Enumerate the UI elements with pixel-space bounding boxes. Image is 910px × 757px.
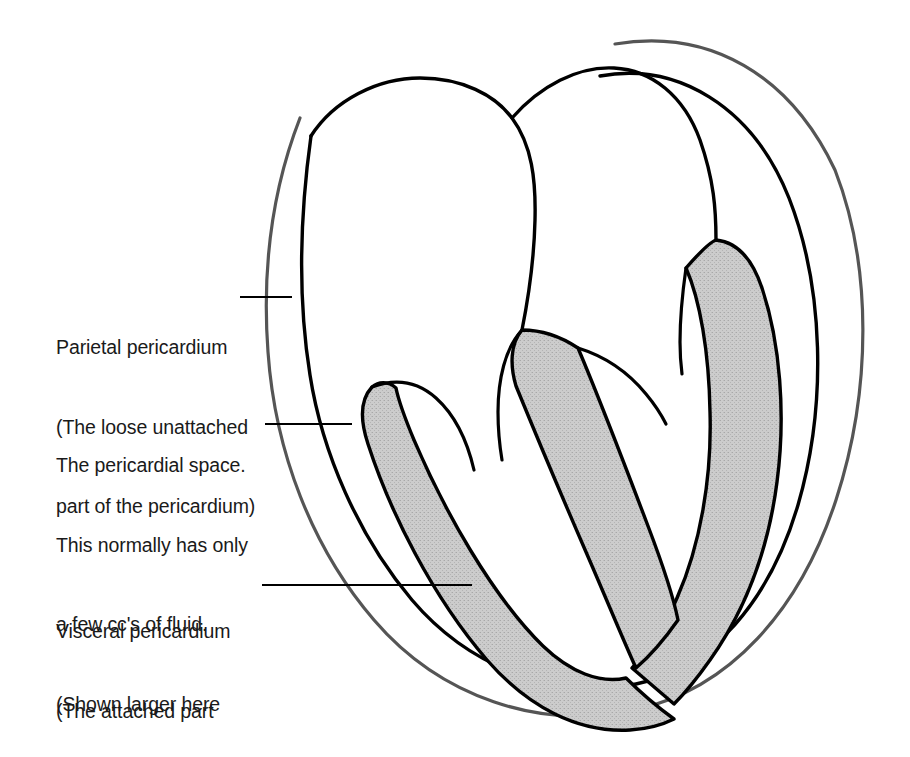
label-visceral-line-2: (The attached part [56,698,230,725]
label-space-line-1: The pericardial space. [56,452,248,479]
label-parietal-line-1: Parietal pericardium [56,334,255,361]
label-visceral-pericardium: Visceral pericardium (The attached part … [56,565,230,757]
label-space-line-2: This normally has only [56,532,248,559]
label-visceral-line-1: Visceral pericardium [56,618,230,645]
